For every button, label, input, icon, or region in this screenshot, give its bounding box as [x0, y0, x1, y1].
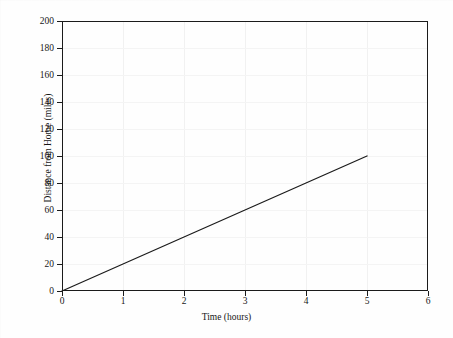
y-axis-tick	[57, 156, 62, 157]
y-axis-tick	[57, 183, 62, 184]
y-axis-tick-label: 0	[0, 286, 54, 296]
y-axis-title-wrapper: Distance from Home (miles)	[26, 21, 27, 291]
series-polyline	[62, 156, 367, 291]
y-axis-tick	[57, 210, 62, 211]
x-axis-tick-label: 4	[291, 296, 321, 307]
x-axis-tick-label: 1	[108, 296, 138, 307]
x-axis-tick-label: 6	[413, 296, 443, 307]
y-axis-tick-label: 20	[0, 259, 54, 269]
line-chart-figure: 0204060801001201401601802000123456 Dista…	[0, 0, 453, 338]
x-axis-tick-label: 3	[230, 296, 260, 307]
y-axis-title: Distance from Home (miles)	[43, 38, 53, 258]
y-axis-tick-label: 200	[0, 16, 54, 26]
y-axis-tick	[57, 129, 62, 130]
y-axis-tick	[57, 21, 62, 22]
y-axis-tick	[57, 102, 62, 103]
y-axis-tick	[57, 48, 62, 49]
data-series-layer	[62, 21, 428, 291]
y-axis-tick	[57, 264, 62, 265]
y-axis-tick	[57, 75, 62, 76]
x-axis-tick-label: 5	[352, 296, 382, 307]
x-axis-tick-label: 2	[169, 296, 199, 307]
x-axis-title: Time (hours)	[0, 312, 453, 322]
chart-page: 0204060801001201401601802000123456 Dista…	[0, 0, 453, 338]
x-axis-tick-label: 0	[47, 296, 77, 307]
y-axis-tick	[57, 237, 62, 238]
distance-line-series	[62, 21, 428, 291]
